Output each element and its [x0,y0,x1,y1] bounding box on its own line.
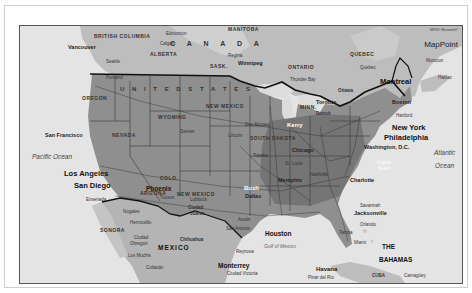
city-label: Portland [106,76,123,81]
region-label: BRITISH COLUMBIA [94,34,150,39]
city-label: Quebec [360,66,376,71]
city-label: Houston [265,231,291,238]
ocean-label: Ocean [435,163,454,170]
city-label: Ciudad [134,236,148,241]
region-label: MINN. [300,105,317,110]
city-label: Savannah [360,204,380,209]
city-label: Memphis [278,178,302,184]
region-label: WYOMING [158,115,187,120]
city-label: Camagüey [404,274,426,279]
city-label: Beach [378,167,391,172]
region-label: SONORA [100,228,125,233]
ocean-label: Atlantic [434,150,455,157]
country-label: U N I T E D S T A T E S [120,86,253,92]
city-label: Winnipeg [238,61,263,67]
city-label: Calgary [160,42,176,47]
city-label: Denver [180,130,195,135]
country-label: BAHAMAS [379,257,412,264]
country-label: CUBA [372,274,385,279]
region-label: ALBERTA [150,52,177,57]
city-label: Lincoln [228,134,242,139]
city-label: Seattle [106,60,120,65]
city-label: Havana [316,266,337,272]
city-label: Nogales [123,210,140,215]
region-label: MANITOBA [228,27,259,32]
city-label: Ensenada [86,198,106,203]
city-label: Pinar del Río [308,276,334,281]
region-label: QUEBEC [350,52,374,57]
city-label: Des Moines [245,123,269,128]
city-label: Washington, D.C. [364,145,409,151]
city-label: Toronto [316,100,336,106]
city-label: Halifax [438,76,452,81]
city-label: Miami [354,241,366,246]
city-label: Reynosa [236,250,254,255]
region-label: NEVADA [112,133,136,138]
city-label: Tucson [160,196,175,201]
city-label: Edmonton [166,32,187,37]
city-label: Monterrey [218,263,249,270]
region-label: COLO. [160,176,178,181]
city-label: Ciudad Victoria [227,272,257,277]
cuba-land [330,262,405,283]
city-label: Jacksonville [354,211,387,217]
gulf-label: Gulf of Mexico [264,244,296,249]
city-label: Detroit [316,112,331,117]
city-label: Topeka [253,154,268,159]
city-label: Culiacán [146,266,164,271]
city-label: Philadelphia [384,134,428,142]
city-label: San Diego [74,182,111,190]
city-label: Los Angeles [64,170,108,178]
city-label: Orlando [360,223,376,228]
city-label: Vancouver [68,45,96,51]
region-label: ONTARIO [288,65,314,70]
city-label-highlight: Kerry [287,122,303,128]
region-label: SASK. [210,64,228,69]
city-label: Juárez [190,212,204,217]
country-label: THE [382,244,395,251]
country-label: MEXICO [158,245,190,252]
country-label: C A N A D A [170,40,264,47]
city-label: Chihuahua [180,238,203,243]
city-label: Nashville [310,173,328,178]
ocean-label: Pacific Ocean [32,154,72,161]
city-label: Boston [392,100,411,106]
city-label: Phoenix [146,186,171,193]
city-label: Montreal [380,78,411,86]
region-label: NEW MEXICO [206,104,244,109]
city-label: New York [392,124,426,132]
city-label: Tampa [339,231,353,236]
city-label: St. Louis [285,162,303,167]
city-label: Chicago [292,148,314,154]
region-label: SOUTH DAKOTA [250,136,296,141]
city-label: Charlotte [350,178,374,184]
city-label: Thunder Bay [290,78,316,83]
city-label: San Antonio [226,227,250,232]
city-label: Los Mochis [128,254,151,259]
city-label: Lubbock [190,198,207,203]
city-label: Regina [228,54,242,59]
city-label: Dallas [245,194,261,200]
region-label: OREGON [82,96,107,101]
city-label: San Francisco [45,133,83,139]
city-label: Ciudad [188,206,203,211]
city-label: Ottawa [338,89,353,94]
mappoint-logo: MSN® Microsoft® MapPoint [424,29,458,51]
city-label-highlight: Bush [244,185,259,191]
city-label: Austin [238,218,251,223]
map-view[interactable]: MSN® Microsoft® MapPoint C A N A D A U N… [19,25,463,284]
city-label: Obregon [130,242,148,247]
city-label: Virginia [376,161,391,166]
city-label: Hermosillo [130,221,151,226]
map-card: MSN® Microsoft® MapPoint C A N A D A U N… [4,5,468,288]
city-label: Hartford [396,114,412,119]
city-label: Moncton [426,59,443,64]
